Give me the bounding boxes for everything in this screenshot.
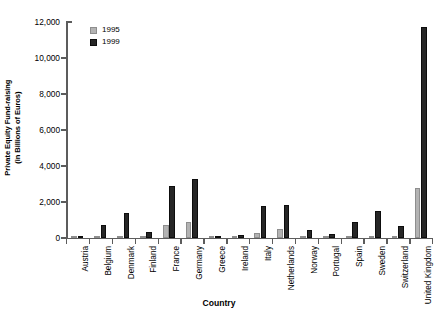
bar-1999-portugal (329, 234, 335, 239)
x-tick-mark (295, 238, 296, 244)
bar-1995-denmark (117, 236, 123, 238)
legend-item-1999: 1999 (90, 37, 120, 47)
y-tick-label: 6,000 (39, 125, 60, 135)
bar-chart: Private Equity Fund-raising (in Billions… (0, 0, 438, 322)
bar-1995-austria (71, 236, 77, 238)
bar-1999-switzerland (398, 226, 404, 238)
bar-1995-france (163, 225, 169, 238)
y-tick-label: 0 (55, 233, 60, 243)
x-tick-label: Greece (218, 246, 227, 273)
bar-group (232, 22, 244, 238)
plot-area: 02,0004,0006,0008,00010,00012,000 (66, 22, 432, 238)
bar-1995-finland (140, 236, 146, 238)
legend-label-1999: 1999 (102, 38, 120, 46)
x-tick-mark (432, 238, 433, 244)
x-tick-mark (180, 238, 181, 244)
x-tick-mark (112, 238, 113, 244)
bar-group (254, 22, 266, 238)
bar-1995-belgium (94, 236, 100, 238)
dark-swatch-icon (90, 39, 97, 46)
y-tick-mark (61, 201, 67, 202)
bar-group (163, 22, 175, 238)
bar-group (392, 22, 404, 238)
y-tick-mark (61, 57, 67, 58)
x-tick-label: United Kingdom (424, 246, 433, 304)
x-tick-mark (226, 238, 227, 244)
bar-1995-norway (300, 236, 306, 238)
y-tick-label: 10,000 (35, 53, 60, 63)
x-tick-label: Switzerland (401, 246, 410, 288)
y-tick-mark (61, 165, 67, 166)
x-tick-mark (363, 238, 364, 244)
bar-group (94, 22, 106, 238)
bar-1995-portugal (323, 236, 329, 238)
y-tick-label: 12,000 (35, 17, 60, 27)
bar-1999-netherlands (284, 205, 290, 238)
y-axis-title: Private Equity Fund-raising (in Billions… (3, 28, 22, 228)
x-tick-label: Spain (355, 246, 364, 267)
x-tick-mark (341, 238, 342, 244)
bar-group (209, 22, 221, 238)
bar-1999-germany (192, 179, 198, 238)
y-axis-title-container: Private Equity Fund-raising (in Billions… (0, 30, 26, 230)
bar-1999-sweden (375, 211, 381, 238)
x-tick-label: Italy (264, 246, 273, 261)
y-tick-label: 4,000 (39, 161, 60, 171)
bar-1999-united-kingdom (421, 27, 427, 238)
x-tick-label: Denmark (127, 246, 136, 279)
x-axis-title: Country (0, 298, 438, 308)
bar-1995-italy (254, 233, 260, 238)
x-tick-mark (386, 238, 387, 244)
x-tick-label: Finland (149, 246, 158, 273)
bar-1995-united-kingdom (415, 188, 421, 238)
bar-group (346, 22, 358, 238)
light-gray-swatch-icon (90, 27, 97, 34)
bar-group (300, 22, 312, 238)
bar-1995-greece (209, 236, 215, 238)
x-tick-mark (409, 238, 410, 244)
bar-group (369, 22, 381, 238)
legend-label-1995: 1995 (102, 26, 120, 34)
bar-1999-italy (261, 206, 267, 238)
bar-1995-sweden (369, 236, 375, 238)
x-tick-label: Austria (81, 246, 90, 271)
x-tick-label: Portugal (332, 246, 341, 277)
x-tick-mark (89, 238, 90, 244)
x-tick-label: France (172, 246, 181, 271)
x-tick-mark (158, 238, 159, 244)
x-tick-mark (318, 238, 319, 244)
bar-1999-austria (78, 236, 84, 238)
bar-group (186, 22, 198, 238)
bar-1999-spain (352, 222, 358, 238)
bar-1999-norway (307, 230, 313, 238)
y-tick-mark (61, 129, 67, 130)
bar-1999-finland (146, 232, 152, 238)
x-tick-label: Ireland (241, 246, 250, 271)
bar-group (117, 22, 129, 238)
bar-1995-germany (186, 222, 192, 238)
bar-1999-denmark (124, 213, 130, 238)
bar-1999-belgium (101, 225, 107, 238)
bar-1999-ireland (238, 235, 244, 238)
bar-group (323, 22, 335, 238)
y-tick-label: 2,000 (39, 197, 60, 207)
x-tick-mark (135, 238, 136, 244)
x-tick-mark (66, 238, 67, 244)
bar-1995-spain (346, 236, 352, 238)
y-tick-mark (61, 93, 67, 94)
x-tick-label: Germany (195, 246, 204, 280)
y-tick-label: 8,000 (39, 89, 60, 99)
bar-group (71, 22, 83, 238)
legend: 1995 1999 (90, 25, 120, 49)
bar-1995-netherlands (277, 229, 283, 238)
bar-1995-ireland (232, 236, 238, 238)
x-tick-label: Netherlands (287, 246, 296, 290)
bar-1995-switzerland (392, 236, 398, 238)
x-tick-mark (249, 238, 250, 244)
bar-group (415, 22, 427, 238)
x-tick-label: Sweden (378, 246, 387, 276)
x-tick-mark (203, 238, 204, 244)
bar-group (277, 22, 289, 238)
x-tick-mark (272, 238, 273, 244)
bar-1999-greece (215, 236, 221, 238)
